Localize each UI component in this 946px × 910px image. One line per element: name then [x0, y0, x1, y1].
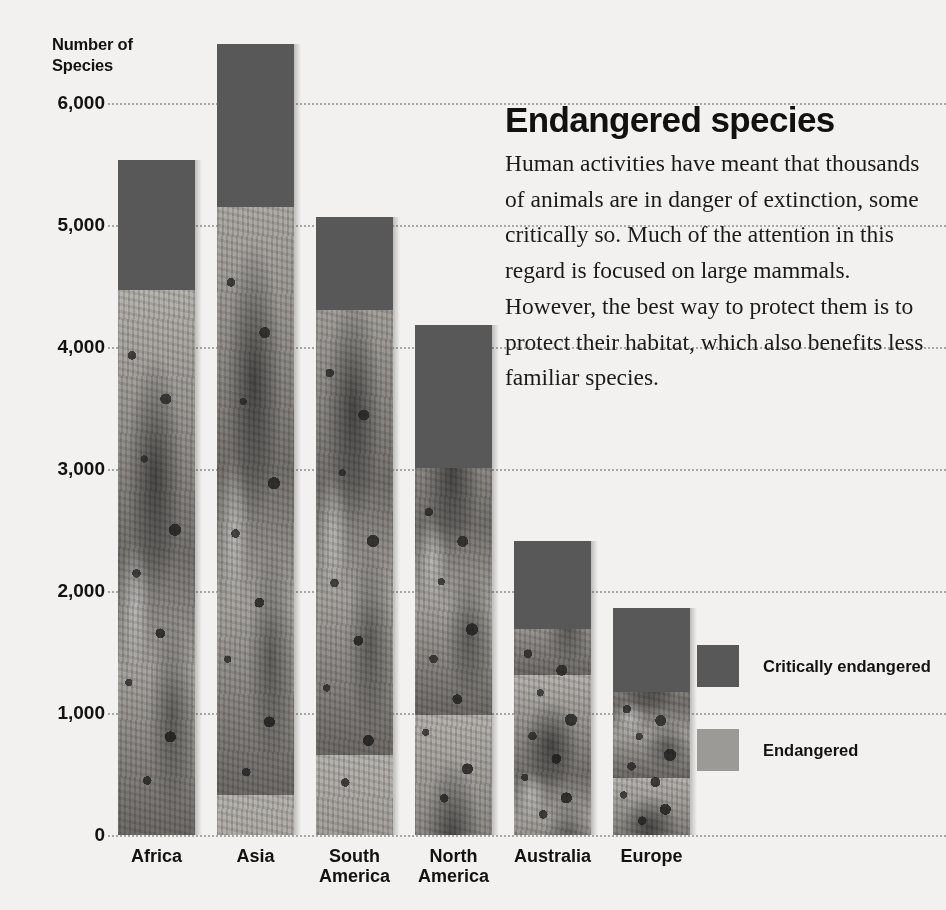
bar-africa — [118, 160, 195, 835]
bar-segment-critically-endangered — [217, 44, 294, 206]
article-body: Human activities have meant that thousan… — [505, 146, 935, 396]
page-title: Endangered species — [505, 100, 935, 140]
y-axis-tick-label: 6,000 — [57, 92, 105, 114]
bar-segment-endangered — [613, 692, 690, 835]
bar-segment-endangered — [514, 629, 591, 835]
y-axis-tick-label: 4,000 — [57, 336, 105, 358]
spot-texture — [118, 290, 195, 835]
bar-shadow — [591, 541, 598, 835]
bar-shadow — [492, 325, 499, 835]
spot-texture — [316, 310, 393, 835]
bar-segment-critically-endangered — [316, 217, 393, 310]
x-axis-label-north-america: North America — [401, 846, 506, 886]
bar-segment-endangered — [217, 207, 294, 835]
spot-texture — [514, 629, 591, 835]
x-axis-label-asia: Asia — [203, 846, 308, 866]
bar-segment-endangered — [316, 310, 393, 835]
bar-shadow — [195, 160, 202, 835]
bar-shadow — [294, 44, 301, 835]
bar-segment-critically-endangered — [415, 325, 492, 468]
bar-asia — [217, 44, 294, 835]
legend-label: Endangered — [763, 741, 858, 760]
legend-swatch-endangered — [697, 729, 739, 771]
bar-south-america — [316, 217, 393, 835]
bar-shadow — [393, 217, 400, 835]
x-axis-label-africa: Africa — [104, 846, 209, 866]
bar-australia — [514, 541, 591, 835]
chart-legend: Critically endangeredEndangered — [697, 645, 937, 813]
y-axis-tick-label: 3,000 — [57, 458, 105, 480]
y-axis-tick-label: 5,000 — [57, 214, 105, 236]
spot-texture — [613, 692, 690, 835]
chart-page: Number of Species 01,0002,0003,0004,0005… — [0, 0, 946, 910]
bar-segment-critically-endangered — [118, 160, 195, 289]
spot-texture — [217, 207, 294, 835]
legend-item[interactable]: Endangered — [697, 729, 937, 771]
spot-texture — [415, 468, 492, 835]
y-axis-tick-label: 1,000 — [57, 702, 105, 724]
x-axis-label-south-america: South America — [302, 846, 407, 886]
legend-item[interactable]: Critically endangered — [697, 645, 937, 687]
bar-segment-endangered — [118, 290, 195, 835]
bar-europe — [613, 608, 690, 835]
bar-shadow — [690, 608, 697, 835]
bar-segment-critically-endangered — [514, 541, 591, 629]
bar-segment-critically-endangered — [613, 608, 690, 692]
article-block: Endangered species Human activities have… — [505, 100, 935, 396]
bar-segment-endangered — [415, 468, 492, 835]
y-axis-tick-label: 0 — [94, 824, 105, 846]
legend-swatch-critically-endangered — [697, 645, 739, 687]
bar-north-america — [415, 325, 492, 835]
x-axis-label-europe: Europe — [599, 846, 704, 866]
x-axis-label-australia: Australia — [500, 846, 605, 866]
y-axis-tick-label: 2,000 — [57, 580, 105, 602]
legend-label: Critically endangered — [763, 657, 931, 676]
